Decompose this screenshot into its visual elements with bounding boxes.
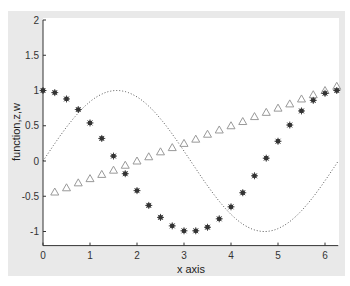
x-tick-label: 1 [87, 250, 93, 261]
star-marker [181, 227, 188, 234]
star-marker [239, 189, 246, 196]
star-marker [98, 135, 105, 142]
star-marker [275, 138, 282, 145]
y-tick-label: 2 [33, 15, 39, 26]
star-marker [310, 97, 317, 104]
y-tick-label: -0.5 [22, 191, 40, 202]
plot-area [43, 18, 339, 246]
star-marker [298, 107, 305, 114]
star-marker [216, 215, 223, 222]
y-tick-label: 1.5 [25, 50, 39, 61]
x-tick-label: 3 [181, 250, 187, 261]
star-marker [322, 90, 329, 97]
star-marker [263, 155, 270, 162]
y-axis-label: function,z,w [10, 103, 22, 161]
x-tick-label: 5 [275, 250, 281, 261]
y-tick-label: 0.5 [25, 120, 39, 131]
chart: 0123456-1-0.500.511.52 x axis function,z… [0, 0, 350, 286]
x-tick-label: 2 [134, 250, 140, 261]
y-tick-label: -1 [30, 226, 39, 237]
star-marker [286, 122, 293, 129]
star-marker [134, 187, 141, 194]
star-marker [333, 87, 340, 94]
star-marker [51, 89, 58, 96]
star-marker [157, 214, 164, 221]
x-tick-label: 0 [40, 250, 46, 261]
star-marker [110, 153, 117, 160]
star-marker [145, 202, 152, 209]
x-axis-label: x axis [177, 263, 206, 275]
x-tick-label: 6 [322, 250, 328, 261]
star-marker [228, 203, 235, 210]
star-marker [87, 119, 94, 126]
star-marker [122, 170, 129, 177]
star-marker [192, 227, 199, 234]
x-tick-label: 4 [228, 250, 234, 261]
star-marker [63, 95, 70, 102]
star-marker [75, 106, 82, 113]
y-tick-label: 0 [33, 156, 39, 167]
star-marker [204, 224, 211, 231]
star-marker [251, 172, 258, 179]
y-tick-label: 1 [33, 85, 39, 96]
star-marker [169, 222, 176, 229]
